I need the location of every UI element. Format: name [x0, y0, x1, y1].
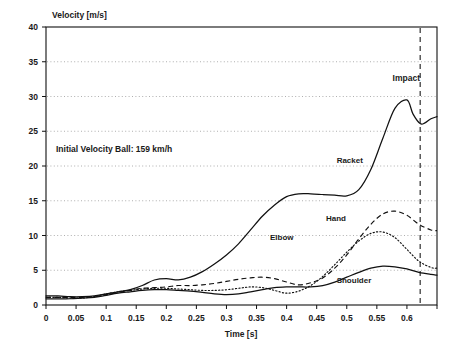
y-tick-label-10: 10 — [29, 231, 39, 241]
x-tick-label-0: 0 — [44, 313, 49, 323]
y-tick-label-20: 20 — [29, 161, 39, 171]
series-label-hand: Hand — [326, 214, 346, 223]
x-tick-label-0.35: 0.35 — [248, 313, 265, 323]
initial-velocity-annotation: Initial Velocity Ball: 159 km/h — [56, 144, 172, 154]
x-tick-label-0.1: 0.1 — [100, 313, 112, 323]
x-tick-label-0.6: 0.6 — [401, 313, 413, 323]
series-label-shoulder: Shoulder — [337, 276, 372, 285]
x-tick-label-0.3: 0.3 — [221, 313, 233, 323]
x-axis-title: Time [s] — [225, 329, 258, 339]
impact-annotation: Impact — [393, 73, 421, 83]
y-tick-label-35: 35 — [29, 57, 39, 67]
series-label-racket: Racket — [337, 156, 364, 165]
series-label-elbow: Elbow — [270, 233, 294, 242]
x-tick-label-0.5: 0.5 — [341, 313, 353, 323]
y-tick-label-5: 5 — [33, 265, 38, 275]
velocity-time-chart: 0510152025303540 00.050.10.150.20.250.30… — [0, 0, 452, 344]
x-tick-label-0.45: 0.45 — [308, 313, 325, 323]
y-tick-label-30: 30 — [29, 92, 39, 102]
y-tick-label-40: 40 — [29, 22, 39, 32]
y-axis-title: Velocity [m/s] — [52, 10, 107, 20]
y-tick-label-25: 25 — [29, 126, 39, 136]
y-tick-label-0: 0 — [33, 300, 38, 310]
x-tick-label-0.15: 0.15 — [128, 313, 145, 323]
x-tick-label-0.55: 0.55 — [369, 313, 386, 323]
y-tick-label-15: 15 — [29, 196, 39, 206]
x-tick-label-0.25: 0.25 — [188, 313, 205, 323]
x-tick-label-0.2: 0.2 — [160, 313, 172, 323]
chart-svg: 0510152025303540 00.050.10.150.20.250.30… — [0, 0, 452, 344]
x-tick-label-0.05: 0.05 — [68, 313, 85, 323]
x-tick-label-0.4: 0.4 — [281, 313, 293, 323]
chart-background — [0, 0, 452, 344]
